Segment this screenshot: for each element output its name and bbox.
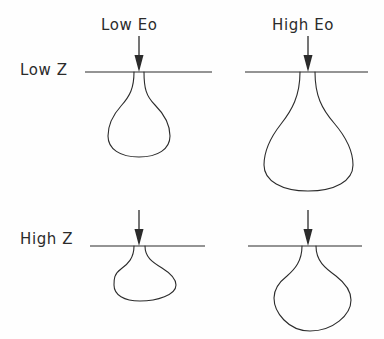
arrow-head-low-z-low-eo xyxy=(135,55,144,72)
arrow-head-low-z-high-eo xyxy=(304,55,313,72)
droplet-diagram-canvas xyxy=(0,0,384,339)
droplet-outline-high-z-high-eo xyxy=(274,246,351,331)
arrow-head-high-z-low-eo xyxy=(135,229,144,246)
column-label-high-eo: High Eo xyxy=(272,18,334,33)
row-label-high-z: High Z xyxy=(20,232,73,247)
cell-high-z-high-eo xyxy=(248,210,362,331)
cell-low-z-high-eo xyxy=(245,36,368,191)
droplet-outline-high-z-low-eo xyxy=(114,246,176,301)
droplet-shape-figure: Low Eo High Eo Low Z High Z xyxy=(0,0,384,339)
cell-high-z-low-eo xyxy=(90,210,205,301)
cell-low-z-low-eo xyxy=(85,36,212,157)
droplet-outline-low-z-low-eo xyxy=(108,72,170,157)
arrow-head-high-z-high-eo xyxy=(304,229,313,246)
row-label-low-z: Low Z xyxy=(20,63,68,78)
column-label-low-eo: Low Eo xyxy=(101,18,158,33)
droplet-outline-low-z-high-eo xyxy=(264,72,353,191)
